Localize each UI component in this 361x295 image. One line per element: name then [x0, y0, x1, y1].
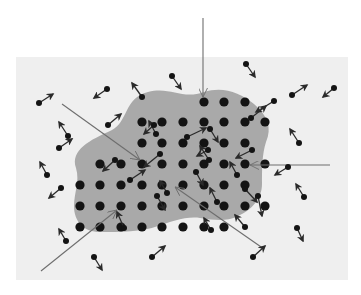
lattice-atom	[199, 97, 208, 106]
particle-dot	[249, 147, 255, 153]
particle-dot	[271, 98, 277, 104]
particle-dot	[157, 151, 163, 157]
lattice-atom	[178, 201, 187, 210]
lattice-atom	[178, 159, 187, 168]
lattice-atom	[137, 180, 146, 189]
particle-dot	[169, 73, 175, 79]
particle-dot	[153, 131, 159, 137]
particle-dot	[184, 134, 190, 140]
particle-dot	[65, 133, 71, 139]
particle-dot	[151, 122, 157, 128]
particle-dot	[331, 85, 337, 91]
lattice-atom	[116, 201, 125, 210]
particle-dot	[154, 193, 160, 199]
particle-dot	[214, 199, 220, 205]
lattice-atom	[75, 222, 84, 231]
lattice-atom	[178, 117, 187, 126]
particle-dot	[205, 147, 211, 153]
lattice-atom	[260, 117, 269, 126]
lattice-atom	[219, 180, 228, 189]
particle-dot	[285, 164, 291, 170]
diagram-canvas	[0, 0, 361, 295]
lattice-atom	[219, 117, 228, 126]
lattice-atom	[240, 138, 249, 147]
lattice-atom	[260, 201, 269, 210]
particle-dot	[44, 172, 50, 178]
particle-dot	[193, 169, 199, 175]
lattice-atom	[219, 159, 228, 168]
lattice-atom	[157, 159, 166, 168]
particle-dot	[234, 172, 240, 178]
particle-dot	[127, 177, 133, 183]
lattice-atom	[137, 222, 146, 231]
particle-dot	[91, 254, 97, 260]
lattice-atom	[157, 138, 166, 147]
particle-dot	[121, 225, 127, 231]
particle-dot	[301, 194, 307, 200]
particle-dot	[139, 94, 145, 100]
lattice-atom	[219, 138, 228, 147]
lattice-atom	[157, 222, 166, 231]
lattice-atom	[178, 180, 187, 189]
lattice-atom	[95, 201, 104, 210]
particle-dot	[206, 157, 212, 163]
particle-dot	[149, 254, 155, 260]
lattice-atom	[137, 201, 146, 210]
particle-dot	[294, 225, 300, 231]
lattice-atom	[137, 138, 146, 147]
lattice-atom	[240, 201, 249, 210]
particle-dot	[164, 190, 170, 196]
particle-dot	[250, 254, 256, 260]
lattice-atom	[137, 117, 146, 126]
lattice-atom	[178, 222, 187, 231]
lattice-atom	[219, 97, 228, 106]
particle-dot	[112, 157, 118, 163]
particle-dot	[289, 92, 295, 98]
lattice-atom	[240, 159, 249, 168]
particle-dot	[296, 140, 302, 146]
particle-dot	[243, 61, 249, 67]
particle-dot	[58, 185, 64, 191]
particle-dot	[208, 227, 214, 233]
particle-dot	[242, 224, 248, 230]
particle-dot	[36, 100, 42, 106]
lattice-atom	[95, 159, 104, 168]
lattice-atom	[75, 201, 84, 210]
particle-dot	[63, 238, 69, 244]
lattice-atom	[116, 180, 125, 189]
lattice-atom	[199, 117, 208, 126]
particle-dot	[242, 186, 248, 192]
particle-dot	[207, 126, 213, 132]
particle-dot	[56, 145, 62, 151]
lattice-diagram: Crystal lattice (dark dots in gray regio…	[0, 0, 361, 295]
particle-dot	[104, 86, 110, 92]
lattice-atom	[95, 180, 104, 189]
lattice-atom	[157, 117, 166, 126]
lattice-atom	[260, 159, 269, 168]
lattice-atom	[219, 201, 228, 210]
particle-dot	[248, 115, 254, 121]
particle-dot	[105, 122, 111, 128]
lattice-atom	[75, 180, 84, 189]
lattice-atom	[137, 159, 146, 168]
particle-dot	[255, 193, 261, 199]
lattice-atom	[240, 97, 249, 106]
